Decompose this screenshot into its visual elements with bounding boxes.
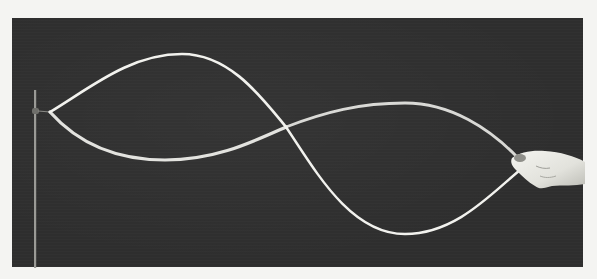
wave-loop2-upper xyxy=(286,103,520,160)
post xyxy=(32,90,50,268)
hand xyxy=(511,151,585,189)
wave-loop1-lower xyxy=(50,112,286,160)
wave-loop1-upper xyxy=(50,54,286,127)
wave-loop2-lower xyxy=(286,127,520,234)
standing-wave-scene xyxy=(0,0,597,279)
